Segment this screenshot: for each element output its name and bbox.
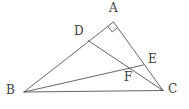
vertex-label-F: F <box>124 71 132 83</box>
vertex-label-A: A <box>109 2 118 14</box>
right-angle-square-icon <box>108 26 118 32</box>
segments-group <box>24 22 163 92</box>
vertex-label-D: D <box>74 25 84 37</box>
vertex-label-E: E <box>148 53 157 65</box>
vertex-label-B: B <box>6 84 15 96</box>
segment-BC <box>24 91 163 93</box>
figure-canvas <box>0 0 189 109</box>
vertex-label-C: C <box>168 83 177 95</box>
geometry-figure: A B C D E F <box>0 0 189 109</box>
angle-marks-group <box>108 26 118 32</box>
